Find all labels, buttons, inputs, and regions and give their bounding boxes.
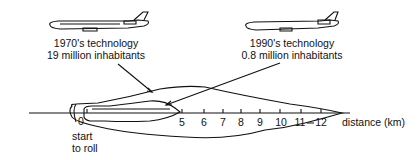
- axis-tick-label: 8: [238, 116, 244, 128]
- plane-1970s-caption: 1970's technology 19 million inhabitants: [40, 37, 152, 61]
- axis-origin-label: 0: [78, 115, 84, 127]
- axis-tick-label: 11: [295, 116, 306, 128]
- axis-tick-label: 12: [315, 116, 327, 128]
- axis-tick-label: 5: [179, 116, 185, 128]
- contour-1990s: [84, 101, 180, 122]
- start-label-line2: to roll: [72, 142, 98, 154]
- plane-1970s-inhabitants: 19 million inhabitants: [40, 49, 152, 61]
- axis-unit-label: distance (km): [342, 116, 405, 128]
- plane-1990s-caption: 1990's technology 0.8 million inhabitant…: [232, 37, 352, 61]
- diagram-graphics: [0, 0, 420, 160]
- start-to-roll-label: start to roll: [72, 130, 98, 154]
- axis-tick-label: 9: [257, 116, 263, 128]
- noise-footprint-diagram: 1970's technology 19 million inhabitants…: [0, 0, 420, 160]
- pointer-1970s: [118, 64, 152, 92]
- axis-tick-label: 7: [220, 116, 226, 128]
- plane-1990s-inhabitants: 0.8 million inhabitants: [232, 49, 352, 61]
- airplane-1990s-icon: [246, 12, 339, 31]
- axis-tick-label: 6: [201, 116, 207, 128]
- axis-tick-label: 10: [275, 116, 287, 128]
- plane-1990s-tech: 1990's technology: [232, 37, 352, 49]
- plane-1970s-tech: 1970's technology: [40, 37, 152, 49]
- airplane-1970s-icon: [50, 12, 149, 31]
- start-label-line1: start: [72, 130, 98, 142]
